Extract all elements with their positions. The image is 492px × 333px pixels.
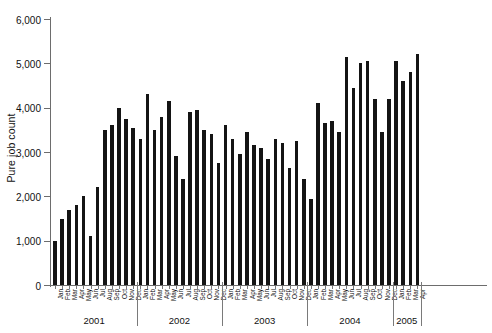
x-axis-tick bbox=[297, 286, 298, 289]
plot-area bbox=[50, 19, 487, 285]
x-axis-month-label: Apr bbox=[250, 289, 256, 299]
x-axis-tick bbox=[226, 286, 227, 289]
y-axis-tick-label: 2,000 bbox=[16, 191, 41, 202]
x-axis-tick bbox=[346, 286, 347, 289]
x-axis-tick bbox=[126, 286, 127, 289]
y-axis-tick-label: 3,000 bbox=[16, 147, 41, 158]
bar bbox=[167, 101, 171, 285]
bar bbox=[224, 125, 228, 285]
bar bbox=[217, 163, 221, 285]
x-axis-month-label: Nov bbox=[385, 289, 391, 300]
bar bbox=[416, 54, 420, 285]
bar bbox=[60, 219, 64, 286]
x-axis-tick bbox=[261, 286, 262, 289]
bar bbox=[373, 99, 377, 285]
bar bbox=[387, 99, 391, 285]
x-axis-month-label: Sep bbox=[114, 289, 120, 300]
bar bbox=[252, 145, 256, 285]
x-axis-tick bbox=[282, 286, 283, 289]
bar bbox=[323, 123, 327, 285]
bar bbox=[103, 130, 107, 285]
year-separator bbox=[137, 282, 138, 326]
x-axis-tick bbox=[197, 286, 198, 289]
bar bbox=[316, 103, 320, 285]
y-axis-tick-label: 4,000 bbox=[16, 103, 41, 114]
x-axis-tick bbox=[133, 286, 134, 289]
bar bbox=[181, 179, 185, 285]
bar bbox=[75, 205, 79, 285]
bar bbox=[409, 72, 413, 285]
x-axis-tick bbox=[389, 286, 390, 289]
bar bbox=[295, 141, 299, 285]
x-axis-month-label: Jan bbox=[313, 289, 319, 299]
x-axis-tick bbox=[218, 286, 219, 289]
y-axis-tick-label: 5,000 bbox=[16, 58, 41, 69]
bar bbox=[139, 139, 143, 285]
x-axis-tick bbox=[275, 286, 276, 289]
x-axis-year-label: 2005 bbox=[396, 315, 417, 326]
bar-chart: Pure job count 01,0002,0003,0004,0005,00… bbox=[0, 0, 492, 333]
x-axis-tick bbox=[353, 286, 354, 289]
bar bbox=[67, 210, 71, 285]
year-separator bbox=[393, 282, 394, 326]
bar bbox=[245, 132, 249, 285]
bar bbox=[266, 159, 270, 285]
x-axis-tick bbox=[211, 286, 212, 289]
x-axis-tick bbox=[55, 286, 56, 289]
x-axis-year-label: 2001 bbox=[84, 315, 105, 326]
x-axis-tick bbox=[368, 286, 369, 289]
x-axis-year-band: 20012002200320042005 bbox=[50, 314, 487, 329]
x-axis-year-label: 2004 bbox=[339, 315, 360, 326]
x-axis-tick bbox=[311, 286, 312, 289]
bar bbox=[281, 143, 285, 285]
x-axis-tick bbox=[318, 286, 319, 289]
year-separator bbox=[222, 282, 223, 326]
x-axis-tick bbox=[361, 286, 362, 289]
x-axis-tick bbox=[98, 286, 99, 289]
x-axis-month-label: Oct bbox=[377, 289, 383, 299]
x-axis-tick bbox=[62, 286, 63, 289]
y-axis-tick-label: 1,000 bbox=[16, 236, 41, 247]
bar bbox=[153, 130, 157, 285]
bar bbox=[210, 134, 214, 285]
x-axis-tick bbox=[112, 286, 113, 289]
bar bbox=[337, 132, 341, 285]
bar bbox=[131, 128, 135, 285]
bar bbox=[401, 81, 405, 285]
x-axis-month-label: Feb bbox=[321, 289, 327, 300]
bar bbox=[394, 61, 398, 285]
x-axis-tick bbox=[91, 286, 92, 289]
bar bbox=[160, 117, 164, 285]
x-axis-tick bbox=[183, 286, 184, 289]
year-separator bbox=[421, 282, 422, 326]
bar bbox=[274, 139, 278, 285]
x-axis-month-label: Jul bbox=[186, 289, 192, 297]
x-axis-tick bbox=[140, 286, 141, 289]
bar bbox=[380, 132, 384, 285]
bar bbox=[188, 112, 192, 285]
bar bbox=[366, 61, 370, 285]
x-axis-tick bbox=[396, 286, 397, 289]
x-axis-tick bbox=[268, 286, 269, 289]
bar bbox=[89, 236, 93, 285]
y-axis-tick-label: 6,000 bbox=[16, 14, 41, 25]
x-axis-year-label: 2002 bbox=[169, 315, 190, 326]
x-axis-tick bbox=[190, 286, 191, 289]
bar bbox=[359, 63, 363, 285]
bar bbox=[96, 187, 100, 285]
x-axis-tick bbox=[247, 286, 248, 289]
bar bbox=[259, 148, 263, 285]
x-axis-tick bbox=[176, 286, 177, 289]
bar bbox=[174, 156, 178, 285]
bar bbox=[195, 110, 199, 285]
bar bbox=[352, 88, 356, 285]
bar bbox=[124, 119, 128, 285]
x-axis-tick bbox=[105, 286, 106, 289]
bar bbox=[117, 108, 121, 285]
bar bbox=[202, 130, 206, 285]
bar bbox=[330, 121, 334, 285]
bar bbox=[345, 57, 349, 285]
x-axis-tick bbox=[119, 286, 120, 289]
bar bbox=[146, 94, 150, 285]
bar bbox=[82, 196, 86, 285]
